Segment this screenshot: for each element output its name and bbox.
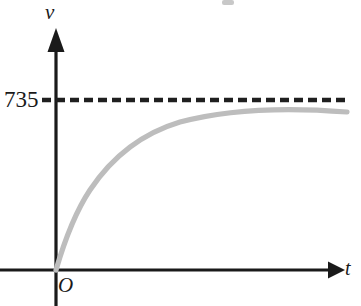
scan-artifact-mark (222, 0, 234, 5)
plot-canvas (0, 0, 361, 306)
y-axis-arrowhead (48, 28, 65, 52)
x-axis-label: t (345, 258, 351, 278)
asymptote-value-label: 735 (4, 88, 39, 111)
x-axis-arrowhead (328, 262, 345, 279)
velocity-time-graph-figure: v t O 735 (0, 0, 361, 306)
origin-label: O (58, 275, 73, 296)
velocity-curve (56, 110, 347, 270)
y-axis-label: v (45, 2, 54, 23)
